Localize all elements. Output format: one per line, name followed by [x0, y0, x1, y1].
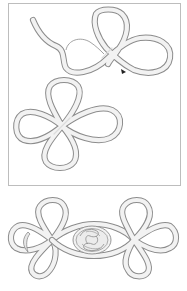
knot-illustration	[0, 0, 187, 291]
step-3-frog-closure	[11, 200, 176, 276]
knot-button	[73, 226, 111, 254]
step-1-knot	[33, 10, 170, 75]
direction-arrow-icon	[121, 69, 126, 74]
step-2-knot	[16, 80, 120, 168]
